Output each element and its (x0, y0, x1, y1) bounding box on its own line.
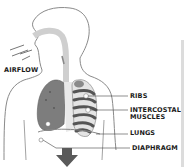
body-outline-left (4, 70, 42, 160)
page-edge-shadow (181, 40, 184, 167)
label-ribs: RIBS (130, 93, 147, 100)
lung-left (37, 80, 66, 131)
airflow-lines (10, 45, 32, 60)
callout-dot-lungs (46, 122, 51, 127)
down-arrow-icon (56, 148, 78, 167)
label-muscles: MUSCLES (130, 114, 165, 121)
body-illustration (0, 0, 184, 167)
callout-dot-ribs (84, 94, 89, 99)
callout-dot-intercostal (86, 108, 91, 113)
label-diaphragm: DIAPHRAGM (132, 145, 178, 152)
callout-dot-diaphragm (39, 138, 43, 142)
respiratory-diagram: AIRFLOW RIBS INTERCOSTAL MUSCLES LUNGS D… (0, 0, 184, 167)
label-airflow: AIRFLOW (4, 67, 38, 74)
label-lungs: LUNGS (130, 130, 155, 137)
